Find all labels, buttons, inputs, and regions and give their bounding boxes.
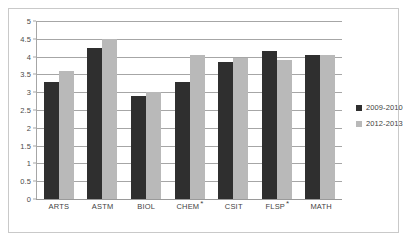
- bar-group: [255, 21, 299, 199]
- x-axis-tick-label: ARTS: [37, 202, 81, 211]
- y-axis-tick-label: 0.5: [20, 177, 31, 186]
- bar: [102, 39, 117, 199]
- bar: [233, 58, 248, 199]
- bar-group: [124, 21, 168, 199]
- bar: [59, 71, 74, 199]
- bar: [44, 82, 59, 199]
- legend-item: 2012-2013: [356, 119, 403, 128]
- y-axis-tick-mark: [33, 56, 36, 57]
- y-axis-tick-mark: [33, 110, 36, 111]
- y-axis-tick-label: 1: [27, 159, 31, 168]
- y-axis-tick-mark: [33, 74, 36, 75]
- y-axis-tick-label: 1.5: [20, 141, 31, 150]
- y-axis-tick-mark: [33, 38, 36, 39]
- legend-swatch-icon: [356, 105, 362, 111]
- bar-group: [168, 21, 212, 199]
- bar: [262, 51, 277, 199]
- plot-area: 00.511.522.533.544.55: [36, 21, 342, 199]
- bar: [190, 55, 205, 199]
- y-axis-tick-label: 0: [27, 195, 31, 204]
- x-axis-tick-label: CHEM*: [168, 202, 212, 211]
- y-axis-tick-mark: [33, 127, 36, 128]
- y-axis-tick-label: 5: [27, 17, 31, 26]
- bar: [175, 82, 190, 199]
- legend-label: 2009-2010: [366, 103, 403, 112]
- y-axis-tick-mark: [33, 199, 36, 200]
- gridline: [36, 199, 342, 200]
- x-axis-tick-label: FLSP*: [256, 202, 300, 211]
- y-axis-tick-mark: [33, 163, 36, 164]
- y-axis-tick-label: 3.5: [20, 70, 31, 79]
- bar: [87, 48, 102, 199]
- y-axis-tick-mark: [33, 181, 36, 182]
- asterisk-icon: *: [286, 199, 289, 208]
- x-axis-tick-label: ASTM: [81, 202, 125, 211]
- y-axis-tick-label: 4: [27, 52, 31, 61]
- y-axis-tick-label: 4.5: [20, 34, 31, 43]
- chart-frame: 00.511.522.533.544.55 ARTSASTMBIOLCHEM*C…: [8, 8, 399, 233]
- legend-item: 2009-2010: [356, 103, 403, 112]
- bar: [131, 96, 146, 199]
- y-axis-tick-mark: [33, 145, 36, 146]
- y-axis-tick-label: 2: [27, 123, 31, 132]
- bar: [218, 62, 233, 199]
- bar-series-layer: [37, 21, 342, 199]
- x-axis-tick-label: BIOL: [124, 202, 168, 211]
- y-axis-tick-label: 2.5: [20, 106, 31, 115]
- x-axis-tick-label: MATH: [299, 202, 343, 211]
- bar: [277, 60, 292, 199]
- bar: [305, 55, 320, 199]
- x-axis-tick-label: CSIT: [212, 202, 256, 211]
- y-axis-tick-mark: [33, 92, 36, 93]
- chart-legend: 2009-2010 2012-2013: [356, 103, 403, 135]
- legend-label: 2012-2013: [366, 119, 403, 128]
- x-axis-tick-labels: ARTSASTMBIOLCHEM*CSITFLSP*MATH: [37, 202, 343, 211]
- y-axis-tick-label: 3: [27, 88, 31, 97]
- bar-group: [37, 21, 81, 199]
- bar-group: [211, 21, 255, 199]
- legend-swatch-icon: [356, 121, 362, 127]
- bar-group: [81, 21, 125, 199]
- bar: [146, 92, 161, 199]
- bar: [320, 55, 335, 199]
- asterisk-icon: *: [200, 199, 203, 208]
- y-axis-tick-mark: [33, 21, 36, 22]
- bar-group: [298, 21, 342, 199]
